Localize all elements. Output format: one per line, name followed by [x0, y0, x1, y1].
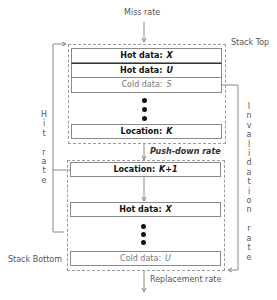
cell-var: X	[166, 205, 172, 214]
stack-cell-cold-data-u: Cold data:U	[70, 251, 221, 266]
cell-prefix: Cold data:	[121, 80, 162, 89]
ellipsis-dot-icon	[142, 116, 147, 121]
stack-top-label: Stack Top	[231, 38, 269, 47]
cell-var: K+1	[159, 165, 177, 174]
cell-var: X	[167, 51, 173, 60]
cell-prefix: Hot data:	[120, 51, 162, 60]
cell-var: K	[166, 127, 172, 136]
miss-rate-label: Miss rate	[124, 8, 160, 17]
ellipsis-dot-icon	[141, 232, 146, 237]
push-down-rate-label: Push-down rate	[150, 147, 221, 156]
cell-prefix: Location:	[113, 165, 155, 174]
cell-prefix: Hot data:	[119, 205, 161, 214]
stack-cell-hot-data-u: Hot data:U	[71, 63, 222, 78]
invalidation-rate-label: Invalidation rate	[244, 102, 254, 262]
ellipsis-dot-icon	[142, 107, 147, 112]
cell-prefix: Hot data:	[120, 66, 162, 75]
hit-rate-label: Hit rate	[39, 110, 49, 185]
cell-var: S	[166, 80, 171, 89]
stack-cell-hot-data-x: Hot data:X	[71, 48, 222, 63]
stack-cell-location-k-plus-1: Location:K+1	[70, 162, 221, 177]
replacement-rate-label: Replacement rate	[150, 275, 221, 284]
ellipsis-dot-icon	[141, 240, 146, 245]
ellipsis-dot-icon	[141, 224, 146, 229]
ellipsis-dot-icon	[142, 98, 147, 103]
cell-var: U	[165, 254, 171, 263]
cell-prefix: Cold data:	[120, 254, 161, 263]
stack-cell-location-k: Location:K	[71, 124, 222, 139]
cell-var: U	[166, 66, 173, 75]
stack-cell-cold-data-s: Cold data:S	[71, 78, 222, 93]
stack-bottom-label: Stack Bottom	[8, 255, 62, 264]
cell-prefix: Location:	[121, 127, 163, 136]
stack-cell-hot-data-x-lower: Hot data:X	[70, 202, 221, 217]
